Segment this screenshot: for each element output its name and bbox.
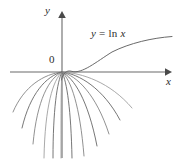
x-axis-label: x	[166, 76, 171, 87]
equation-variable: x	[120, 27, 125, 39]
x-axis	[10, 68, 172, 76]
equation-label: y=lnx	[91, 28, 126, 39]
origin-label: 0	[49, 54, 55, 65]
fan-curve-3	[33, 72, 62, 144]
ln-curve	[62, 37, 173, 81]
y-axis-label: y	[45, 5, 50, 16]
equation-operator: =	[99, 27, 105, 39]
ln-curve-path	[62, 37, 173, 81]
equation-lhs: y	[91, 27, 96, 39]
y-axis-arrowhead	[58, 11, 66, 18]
fan-curve-9	[62, 72, 97, 146]
figure-canvas: y x 0 y=lnx	[0, 0, 181, 162]
fan-curve-8	[62, 72, 84, 156]
equation-function: ln	[109, 27, 118, 39]
curve-family	[13, 72, 132, 158]
y-axis	[58, 11, 66, 158]
plot-svg	[0, 0, 181, 162]
